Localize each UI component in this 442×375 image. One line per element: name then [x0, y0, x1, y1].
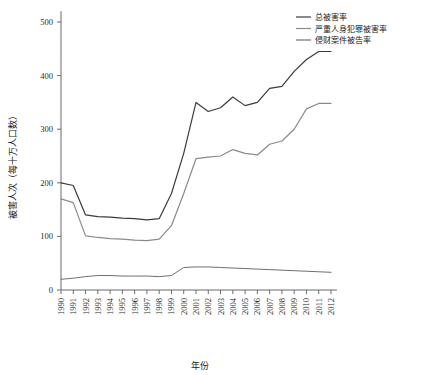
legend-label-2: 侵财案件被告率 [315, 35, 371, 45]
x-tick-label: 2000 [179, 298, 189, 315]
x-axis: 1990199119921993199419951996199719981999… [56, 290, 337, 315]
y-tick-label: 0 [49, 285, 53, 295]
y-axis-title: 被害人次（每十万人口数） [7, 111, 18, 219]
y-tick-label: 400 [40, 71, 53, 81]
x-tick-label: 2011 [314, 298, 324, 315]
line-chart: 0100200300400500 19901991199219931994199… [0, 0, 442, 375]
legend-label-0: 总被害率 [315, 12, 347, 22]
y-tick-label: 200 [40, 178, 53, 188]
x-tick-label: 1997 [142, 298, 152, 315]
x-tick-label: 2012 [326, 298, 336, 315]
x-tick-label: 1998 [154, 298, 164, 315]
x-tick-label: 1996 [130, 298, 140, 315]
x-tick-label: 1991 [68, 298, 78, 315]
y-tick-label: 500 [40, 17, 53, 27]
x-tick-label: 2009 [289, 298, 299, 315]
x-tick-label: 2008 [277, 298, 287, 315]
x-tick-label: 2003 [216, 298, 226, 315]
x-tick-label: 1999 [166, 298, 176, 315]
chart-container: 0100200300400500 19901991199219931994199… [0, 0, 442, 375]
x-tick-label: 1992 [81, 298, 91, 315]
x-tick-label: 2010 [301, 298, 311, 315]
series-line-1 [61, 103, 331, 240]
x-tick-label: 2006 [252, 298, 262, 315]
chart-legend: 总被害率严重人身犯罪被害率侵财案件被告率 [296, 12, 387, 45]
x-tick-label: 2007 [265, 298, 275, 315]
x-tick-label: 1995 [117, 298, 127, 315]
y-tick-label: 100 [40, 231, 53, 241]
x-tick-label: 2002 [203, 298, 213, 315]
x-tick-label: 2001 [191, 298, 201, 315]
series-line-0 [61, 51, 331, 219]
legend-label-1: 严重人身犯罪被害率 [315, 24, 387, 34]
series-lines [61, 51, 331, 279]
x-tick-label: 2005 [240, 298, 250, 315]
series-line-2 [61, 267, 331, 279]
x-tick-label: 1994 [105, 297, 115, 315]
y-axis: 0100200300400500 [40, 11, 61, 295]
y-tick-label: 300 [40, 124, 53, 134]
x-tick-label: 1990 [56, 298, 66, 315]
x-axis-title: 年份 [191, 360, 209, 371]
x-tick-label: 1993 [93, 298, 103, 315]
x-tick-label: 2004 [228, 297, 238, 315]
